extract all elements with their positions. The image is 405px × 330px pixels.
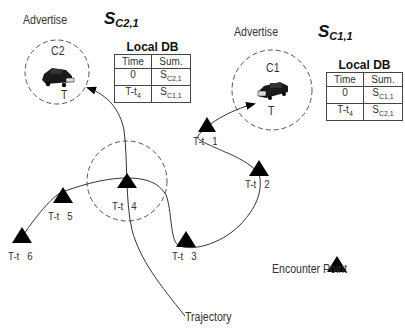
- encounter-point-icon-3: [176, 231, 196, 247]
- cell-sum: SC1,1: [152, 86, 191, 103]
- time-label-c1: T: [268, 104, 274, 118]
- encounter-label-2: T-t 2: [245, 178, 270, 190]
- encounter-point-icon-2: [249, 160, 269, 176]
- encounter-label-5: T-t 5: [48, 210, 73, 222]
- cell-sum: SC2,1: [152, 69, 191, 86]
- header-time: Time: [327, 73, 364, 87]
- table-row: 0 SC2,1: [115, 69, 191, 86]
- car-icon-c1: [258, 82, 288, 100]
- cell-sum: SC2,1: [364, 104, 403, 121]
- encounter-point-icon-1: [198, 117, 216, 132]
- header-sum: Sum.: [152, 55, 191, 69]
- local-db-table-c1: Time Sum. 0 SC1,1 T-t4 SC2,1: [326, 72, 403, 121]
- car-icon-c2: [42, 68, 74, 87]
- legend-trajectory-label: Trajectory: [185, 310, 232, 324]
- car-label-c2: C2: [51, 44, 65, 58]
- encounter-label-1: T-t 1: [193, 135, 218, 147]
- local-db-title-c1: Local DB: [326, 59, 403, 72]
- table-row: T-t4 SC2,1: [327, 104, 403, 121]
- header-time: Time: [115, 55, 152, 69]
- local-db-c1: Local DB Time Sum. 0 SC1,1 T-t4 SC2,1: [326, 59, 403, 121]
- encounter-label-4: T-t 4: [112, 200, 137, 212]
- advertise-label-c1: Advertise: [234, 25, 278, 39]
- cell-time: 0: [327, 87, 364, 104]
- summary-symbol-c2: SC2,1: [104, 9, 139, 29]
- encounter-point-icon-4: [117, 173, 137, 188]
- cell-time: 0: [115, 69, 152, 86]
- local-db-title-c2: Local DB: [114, 41, 191, 54]
- legend-encounter-point-label: Encounter Point: [272, 262, 347, 276]
- local-db-table-c2: Time Sum. 0 SC2,1 T-t4 SC1,1: [114, 54, 191, 103]
- summary-symbol-c1: SC1,1: [318, 22, 353, 42]
- table-header-row: Time Sum.: [115, 55, 191, 69]
- cell-sum: SC1,1: [364, 87, 403, 104]
- time-label-c2: T: [61, 88, 67, 102]
- cell-time: T-t4: [327, 104, 364, 121]
- encounter-label-6: T-t 6: [8, 250, 33, 262]
- encounter-label-3: T-t 3: [172, 250, 197, 262]
- c1-trajectory-line: [22, 104, 260, 248]
- table-header-row: Time Sum.: [327, 73, 403, 87]
- table-row: 0 SC1,1: [327, 87, 403, 104]
- car-label-c1: C1: [266, 61, 280, 75]
- cell-time: T-t4: [115, 86, 152, 103]
- table-row: T-t4 SC1,1: [115, 86, 191, 103]
- encounter-point-icon-6: [12, 227, 32, 243]
- header-sum: Sum.: [364, 73, 403, 87]
- advertise-label-c2: Advertise: [23, 13, 67, 27]
- local-db-c2: Local DB Time Sum. 0 SC2,1 T-t4 SC1,1: [114, 41, 191, 103]
